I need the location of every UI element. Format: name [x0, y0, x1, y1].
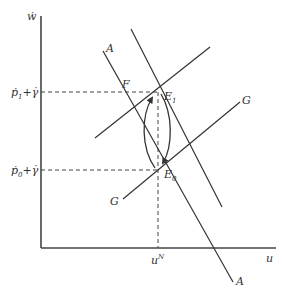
upper-level-label: ṗ1+γ̇ [11, 86, 39, 101]
y-axis-label: ẇ [27, 10, 37, 23]
x-axis-label: u [266, 252, 273, 265]
curve-a-bottom-label: A [235, 275, 244, 288]
curve-g-upper-label: G [242, 94, 251, 107]
natural-rate-label: uN [151, 253, 165, 267]
lower-level-label: ṗ0+γ̇ [11, 164, 39, 179]
curve-a-top-label: A [105, 42, 114, 55]
diagram: ẇ u ṗ1+γ̇ ṗ0+γ̇ uN A A G G F E1 E0 [0, 0, 282, 291]
point-f-label: F [121, 78, 130, 91]
curve-g-lower-label: G [110, 195, 119, 208]
point-e0-label: E0 [163, 168, 177, 183]
